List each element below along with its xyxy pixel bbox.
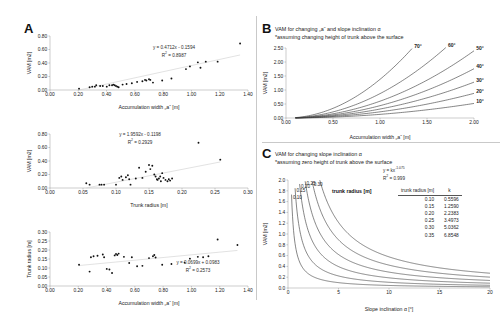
svg-text:10: 10 <box>386 290 392 295</box>
panel-c-title-line2: *assuming zero height of trunk above the… <box>275 158 392 166</box>
divider-horizontal <box>262 142 500 143</box>
figure-root: A B C 0.000.200.400.600.801.001.201.400.… <box>0 0 502 315</box>
equation-text: y = 1.9592x - 0.1198 <box>119 132 161 137</box>
svg-text:5: 5 <box>337 290 340 295</box>
svg-text:VAM [m2]: VAM [m2] <box>262 222 268 245</box>
svg-text:1.00: 1.00 <box>375 120 385 125</box>
svg-text:1.8: 1.8 <box>278 189 285 194</box>
svg-text:Slope inclination α [°]: Slope inclination α [°] <box>365 306 414 312</box>
chart-a-top-equation: y = 0.4712x - 0.1594 R2 = 0.8987 <box>126 44 222 60</box>
panel-c-title-line1: VAM for changing slope inclination α <box>275 150 392 158</box>
svg-text:0.15: 0.15 <box>38 257 48 262</box>
svg-text:0.05: 0.05 <box>78 190 88 195</box>
svg-text:0.15: 0.15 <box>144 190 154 195</box>
panel-letter-c: C <box>262 147 271 160</box>
svg-text:0.6: 0.6 <box>278 253 285 258</box>
panel-b-title: VAM for changing „a“ and slope inclinati… <box>275 25 404 42</box>
svg-text:0.00: 0.00 <box>38 186 48 191</box>
svg-text:0.00: 0.00 <box>281 120 291 125</box>
svg-text:0.40: 0.40 <box>102 288 112 293</box>
svg-text:0.00: 0.00 <box>274 116 284 121</box>
svg-text:1.00: 1.00 <box>274 88 284 93</box>
svg-text:0.80: 0.80 <box>38 132 48 137</box>
svg-text:1.50: 1.50 <box>422 120 432 125</box>
svg-text:0.30: 0.30 <box>38 230 48 235</box>
equation-text: y = 0.0699x + 0.0983 <box>176 260 219 265</box>
svg-text:0.60: 0.60 <box>38 145 48 150</box>
svg-text:0.2: 0.2 <box>278 275 285 280</box>
svg-text:0.60: 0.60 <box>38 47 48 52</box>
svg-text:0.20: 0.20 <box>74 92 84 97</box>
svg-text:1.40: 1.40 <box>243 288 253 293</box>
svg-text:1.40: 1.40 <box>243 92 253 97</box>
svg-text:1.00: 1.00 <box>187 92 197 97</box>
chart-b: 0.000.501.001.502.000.000.501.001.502.00… <box>262 42 500 140</box>
chart-c-canvas: 051015200.00.20.40.60.81.01.21.41.61.82.… <box>262 172 500 312</box>
svg-text:0.0: 0.0 <box>278 286 285 291</box>
svg-text:0.50: 0.50 <box>274 102 284 107</box>
panel-b-title-line2: *assuming changing height of trunk above… <box>275 33 404 41</box>
svg-text:0.20: 0.20 <box>177 190 187 195</box>
svg-text:0.25: 0.25 <box>38 239 48 244</box>
svg-text:1.0: 1.0 <box>278 232 285 237</box>
panel-c-title: VAM for changing slope inclination α *as… <box>275 150 392 167</box>
svg-text:20: 20 <box>487 290 493 295</box>
svg-text:0.20: 0.20 <box>38 74 48 79</box>
svg-text:2.00: 2.00 <box>274 60 284 65</box>
svg-text:Trunk radius [m]: Trunk radius [m] <box>26 240 32 278</box>
svg-text:50°: 50° <box>476 45 484 51</box>
svg-text:1.00: 1.00 <box>187 288 197 293</box>
svg-text:VAM [m2]: VAM [m2] <box>262 71 268 94</box>
svg-text:0.00: 0.00 <box>38 88 48 93</box>
panel-letter-b: B <box>262 22 271 35</box>
svg-text:Accumulation width „a“ [m]: Accumulation width „a“ [m] <box>349 134 411 140</box>
chart-a-bottom-equation: y = 0.0699x + 0.0983 R2 = 0.2573 <box>150 259 246 275</box>
svg-text:0.30: 0.30 <box>243 190 253 195</box>
svg-text:0.00: 0.00 <box>45 92 55 97</box>
divider-vertical <box>256 16 257 300</box>
svg-text:0.40: 0.40 <box>38 159 48 164</box>
svg-text:0.80: 0.80 <box>158 92 168 97</box>
svg-text:0.10: 0.10 <box>293 195 302 200</box>
chart-c: 051015200.00.20.40.60.81.01.21.41.61.82.… <box>262 172 500 312</box>
svg-text:0.25: 0.25 <box>210 190 220 195</box>
svg-text:0.10: 0.10 <box>111 190 121 195</box>
svg-text:60°: 60° <box>448 42 456 48</box>
r2-text: R2 = 0.8987 <box>162 53 187 58</box>
svg-text:0.50: 0.50 <box>328 120 338 125</box>
svg-text:1.20: 1.20 <box>215 92 225 97</box>
svg-text:0.80: 0.80 <box>158 288 168 293</box>
svg-text:1.50: 1.50 <box>274 74 284 79</box>
svg-text:0.60: 0.60 <box>130 92 140 97</box>
svg-text:0.20: 0.20 <box>74 288 84 293</box>
svg-text:1.4: 1.4 <box>278 210 285 215</box>
svg-text:0.40: 0.40 <box>38 61 48 66</box>
svg-text:0.20: 0.20 <box>38 172 48 177</box>
svg-text:Accumulation width „a“ [m]: Accumulation width „a“ [m] <box>118 104 180 110</box>
svg-text:0.00: 0.00 <box>45 288 55 293</box>
svg-text:1.2: 1.2 <box>278 221 285 226</box>
svg-text:30°: 30° <box>476 77 484 83</box>
chart-b-canvas: 0.000.501.001.502.000.000.501.001.502.00… <box>262 42 500 140</box>
svg-text:0.8: 0.8 <box>278 243 285 248</box>
chart-a-middle-equation: y = 1.9592x - 0.1198 R2 = 0.2929 <box>92 131 188 147</box>
svg-text:40°: 40° <box>476 63 484 69</box>
svg-text:VAM [m2]: VAM [m2] <box>26 51 32 74</box>
chart-a-top: 0.000.200.400.600.801.001.201.400.000.20… <box>26 30 254 110</box>
svg-text:1.20: 1.20 <box>215 288 225 293</box>
svg-text:Trunk radius [m]: Trunk radius [m] <box>130 202 168 208</box>
r2-text: R2 = 0.2573 <box>186 268 211 273</box>
svg-text:0.00: 0.00 <box>45 190 55 195</box>
svg-text:0.80: 0.80 <box>38 34 48 39</box>
svg-text:0.10: 0.10 <box>38 266 48 271</box>
svg-text:70°: 70° <box>414 43 422 49</box>
svg-text:Accumulation width „a“ [m]: Accumulation width „a“ [m] <box>118 300 180 306</box>
r2-text: R2 = 0.2929 <box>128 140 153 145</box>
svg-text:0: 0 <box>287 290 290 295</box>
svg-text:VAM [m2]: VAM [m2] <box>26 149 32 172</box>
svg-text:15: 15 <box>437 290 443 295</box>
svg-text:0.4: 0.4 <box>278 264 285 269</box>
svg-text:2.0: 2.0 <box>278 178 285 183</box>
chart-a-top-canvas: 0.000.200.400.600.801.001.201.400.000.20… <box>26 30 254 110</box>
svg-text:0.60: 0.60 <box>130 288 140 293</box>
